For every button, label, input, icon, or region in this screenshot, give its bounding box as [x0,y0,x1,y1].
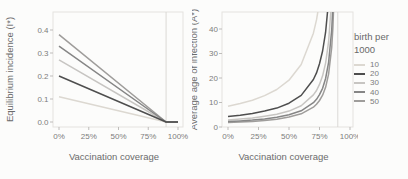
legend-item-label: 10 [370,60,379,69]
y-tick-label: 0.1 [37,95,49,104]
left-chart-equilibrium-incidence: 0%25%50%75%100%0.00.10.20.30.4Vaccinatio… [0,0,192,179]
legend-title: birth per 1000 [354,31,406,56]
legend-item-40: 40 [354,88,406,97]
series-line-birthrate-10 [228,0,337,106]
y-tick-label: 0.2 [37,72,49,81]
x-tick-label: 0% [222,132,234,141]
x-tick-label: 100% [168,132,188,141]
y-axis-title: Equilibrium incidence (I*) [4,17,15,122]
legend-item-50: 50 [354,97,406,106]
series-line-birthrate-50 [59,35,178,122]
legend-swatch-line-icon [354,100,365,102]
series-group [228,0,337,123]
legend-item-10: 10 [354,60,406,69]
y-tick-label: 20 [209,74,218,83]
y-tick-label: 0.3 [37,49,49,58]
legend: birth per 1000 1020304050 [354,31,406,106]
y-tick-label: 40 [209,25,218,34]
legend-title-line1: birth per [354,31,406,44]
y-tick-label: 0.0 [37,118,49,127]
legend-item-30: 30 [354,78,406,87]
x-tick-label: 75% [140,132,156,141]
x-axis-title: Vaccination coverage [69,151,159,162]
x-tick-label: 0% [53,132,65,141]
right-chart-average-age-of-infection: 0%25%50%75%100%010203040Vaccination cove… [192,0,358,179]
series-line-birthrate-30 [59,60,178,122]
x-tick-label: 75% [311,132,327,141]
legend-items: 1020304050 [354,60,406,106]
legend-item-label: 50 [370,97,379,106]
y-axis-title: Average age of infection (A*) [192,9,199,130]
y-tick-label: 10 [209,98,218,107]
x-tick-label: 25% [250,132,266,141]
legend-item-label: 40 [370,88,379,97]
y-tick-label: 0.4 [37,26,49,35]
panel-border [53,12,183,127]
legend-title-line2: 1000 [354,44,406,57]
legend-swatch-line-icon [354,64,365,66]
y-tick-label: 0 [214,123,219,132]
legend-item-label: 30 [370,78,379,87]
y-tick-label: 30 [209,49,218,58]
x-tick-label: 100% [340,132,358,141]
legend-swatch-line-icon [354,91,365,93]
x-tick-label: 25% [81,132,97,141]
legend-swatch-line-icon [354,73,365,75]
x-tick-label: 50% [281,132,297,141]
x-tick-label: 50% [110,132,126,141]
figure: 0%25%50%75%100%0.00.10.20.30.4Vaccinatio… [0,0,408,179]
x-axis-title: Vaccination coverage [238,151,328,162]
legend-swatch-line-icon [354,82,365,84]
legend-item-label: 20 [370,69,379,78]
series-group [59,35,178,122]
legend-item-20: 20 [354,69,406,78]
